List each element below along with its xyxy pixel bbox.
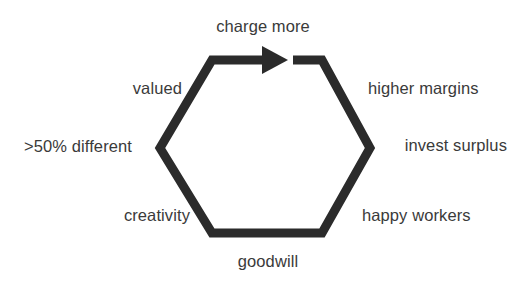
- cycle-ring-path: [160, 60, 370, 233]
- node-label-charge-more: charge more: [216, 18, 310, 35]
- node-label-invest-surplus: invest surplus: [405, 137, 507, 154]
- node-label-creativity: creativity: [124, 207, 190, 224]
- diagram-canvas: charge more higher margins invest surplu…: [0, 0, 526, 284]
- node-label-goodwill: goodwill: [238, 253, 298, 270]
- node-label-higher-margins: higher margins: [368, 80, 479, 97]
- node-label-more-than-50-percent-different: >50% different: [24, 138, 132, 155]
- clockwise-arrow-head-icon: [262, 46, 288, 74]
- node-label-valued: valued: [133, 80, 182, 97]
- node-label-happy-workers: happy workers: [362, 207, 471, 224]
